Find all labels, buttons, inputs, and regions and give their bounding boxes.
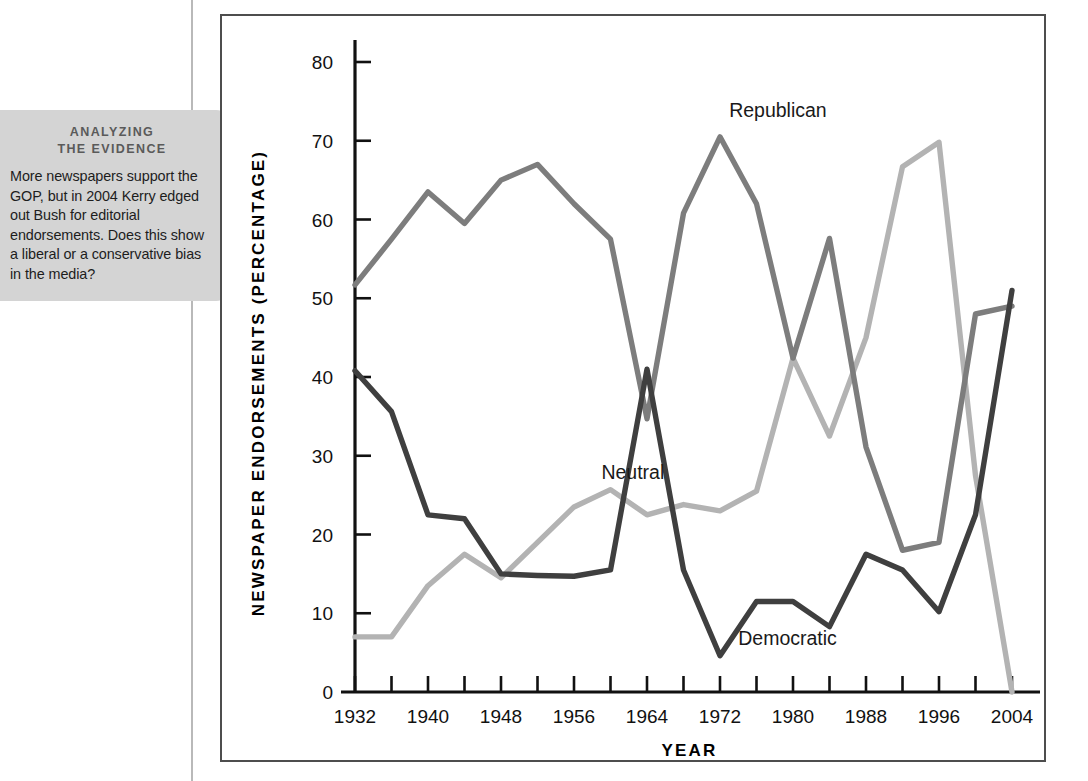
x-axis-tick-label: 1996: [918, 706, 960, 727]
y-axis-title: NEWSPAPER ENDORSEMENTS (PERCENTAGE): [249, 150, 268, 616]
x-axis-title: YEAR: [661, 741, 717, 760]
line-chart-svg: 0102030405060708019321940194819561964197…: [222, 16, 1044, 760]
x-axis-tick-label: 1932: [334, 706, 376, 727]
x-axis-tick-label: 1988: [845, 706, 887, 727]
x-axis-tick-label: 2004: [991, 706, 1034, 727]
series-label-neutral: Neutral: [601, 461, 664, 483]
chart-frame: 0102030405060708019321940194819561964197…: [220, 14, 1046, 762]
y-axis-tick-label: 10: [312, 603, 333, 624]
series-label-democratic: Democratic: [738, 627, 837, 649]
y-axis-tick-label: 50: [312, 288, 333, 309]
y-axis-tick-label: 40: [312, 367, 333, 388]
x-axis-tick-label: 1940: [407, 706, 449, 727]
y-axis-tick-label: 70: [312, 131, 333, 152]
y-axis-tick-label: 30: [312, 446, 333, 467]
x-axis-tick-label: 1980: [772, 706, 814, 727]
x-axis-tick-label: 1964: [626, 706, 669, 727]
callout-heading-line2: THE EVIDENCE: [10, 141, 214, 158]
x-axis-tick-label: 1956: [553, 706, 595, 727]
plot-area: 0102030405060708019321940194819561964197…: [222, 16, 1044, 760]
y-axis-tick-label: 0: [322, 682, 333, 703]
series-line-republican: [355, 137, 1012, 550]
analyzing-the-evidence-callout: ANALYZING THE EVIDENCE More newspapers s…: [0, 110, 230, 301]
x-axis-tick-label: 1948: [480, 706, 522, 727]
series-label-republican: Republican: [729, 99, 827, 121]
callout-body-text: More newspapers support the GOP, but in …: [10, 167, 214, 285]
series-line-democratic: [355, 290, 1012, 655]
y-axis-tick-label: 60: [312, 210, 333, 231]
callout-heading-line1: ANALYZING: [10, 124, 214, 141]
y-axis-tick-label: 20: [312, 525, 333, 546]
callout-heading: ANALYZING THE EVIDENCE: [10, 124, 214, 158]
x-axis-tick-label: 1972: [699, 706, 741, 727]
y-axis-tick-label: 80: [312, 52, 333, 73]
